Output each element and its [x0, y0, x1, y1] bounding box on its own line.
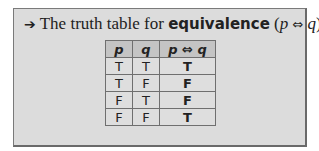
cell-q: F: [133, 75, 160, 92]
right-arrow-icon: ➔: [24, 16, 36, 32]
header-result-q: q: [197, 42, 206, 57]
header-iff-operator: ⇔: [178, 42, 198, 57]
cell-q: F: [133, 109, 160, 126]
cell-p: T: [106, 58, 133, 75]
intro-sentence: ➔The truth table for equivalence (p ⇔ q)…: [24, 14, 319, 34]
header-p: p: [106, 41, 133, 58]
math-q: q: [307, 14, 316, 33]
table-row: F T F: [106, 92, 216, 109]
cell-p: F: [106, 92, 133, 109]
keyword-equivalence: equivalence: [168, 15, 270, 33]
table-row: F F T: [106, 109, 216, 126]
cell-q: T: [133, 92, 160, 109]
intro-prefix: The truth table for: [40, 14, 168, 33]
truth-table: p q p ⇔ q T T T T F F F T F F: [105, 40, 216, 126]
cell-result: F: [160, 92, 216, 109]
iff-operator: ⇔: [288, 17, 307, 32]
cell-p: T: [106, 75, 133, 92]
math-p: p: [280, 14, 289, 33]
cell-q: T: [133, 58, 160, 75]
cell-result: T: [160, 109, 216, 126]
cell-result: F: [160, 75, 216, 92]
table-row: T F F: [106, 75, 216, 92]
info-box: ➔The truth table for equivalence (p ⇔ q)…: [13, 8, 307, 147]
cell-p: F: [106, 109, 133, 126]
table-row: T T T: [106, 58, 216, 75]
paren-open: (: [270, 14, 280, 33]
header-result-p: p: [168, 42, 177, 57]
header-q: q: [133, 41, 160, 58]
paren-close: ): [316, 14, 319, 33]
header-row: p q p ⇔ q: [106, 41, 216, 58]
cell-result: T: [160, 58, 216, 75]
header-result: p ⇔ q: [160, 41, 216, 58]
